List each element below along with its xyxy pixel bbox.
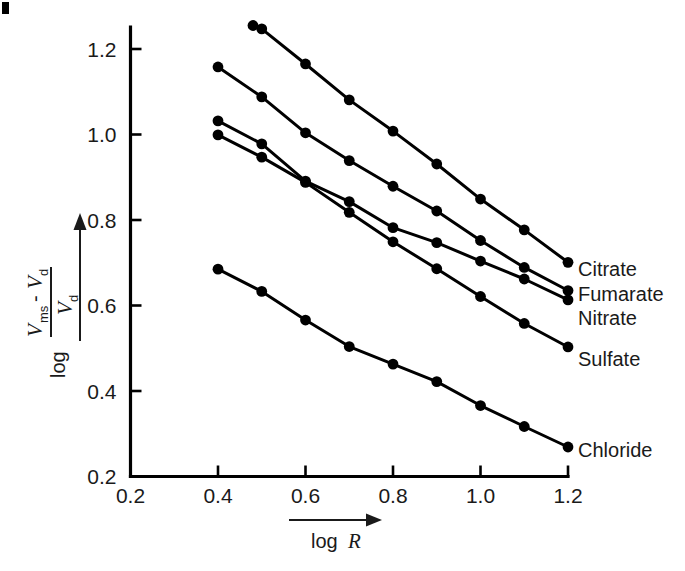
x-tick-label: 0.8 <box>378 484 407 507</box>
data-point <box>213 130 224 141</box>
y-axis-ticks: 0.20.40.60.81.01.2 <box>87 38 141 489</box>
data-series-group <box>213 20 574 452</box>
y-axis-numerator-v2-subscript: d <box>36 269 51 276</box>
y-axis-label-group: log V ms - V d V d <box>23 213 87 378</box>
data-point <box>519 274 530 285</box>
x-axis-label-variable: R <box>347 529 361 553</box>
series-line-chloride <box>218 269 568 447</box>
x-tick-label: 1.2 <box>553 484 582 507</box>
data-point <box>344 207 355 218</box>
data-point <box>475 256 486 267</box>
series-line-fumarate <box>218 67 568 291</box>
y-tick-label: 1.2 <box>87 38 116 61</box>
data-point <box>213 62 224 73</box>
y-tick-label: 0.8 <box>87 209 116 232</box>
data-point <box>431 237 442 248</box>
data-point <box>213 115 224 126</box>
data-point <box>475 400 486 411</box>
data-point <box>388 359 399 370</box>
x-axis-ticks: 0.20.40.60.81.01.2 <box>116 466 583 507</box>
y-tick-label: 0.6 <box>87 294 116 317</box>
x-tick-label: 0.4 <box>203 484 233 507</box>
y-axis-numerator-minus: - <box>24 295 46 302</box>
x-tick-label: 0.6 <box>291 484 320 507</box>
y-axis-label-log: log <box>47 351 69 378</box>
x-axis-arrow-head <box>366 514 382 527</box>
y-tick-label: 0.4 <box>87 380 117 403</box>
x-axis-label-log: log <box>311 530 338 552</box>
data-point <box>344 196 355 207</box>
data-point <box>300 59 311 70</box>
data-point <box>519 318 530 329</box>
data-point <box>431 376 442 387</box>
y-tick-label: 1.0 <box>87 123 116 146</box>
data-point <box>475 291 486 302</box>
data-point <box>213 264 224 275</box>
data-point <box>256 24 267 35</box>
data-point <box>563 342 574 353</box>
figure-container: 0.20.40.60.81.01.2 0.20.40.60.81.01.2 Ci… <box>0 0 685 571</box>
data-point <box>388 222 399 233</box>
data-point <box>563 442 574 453</box>
data-point <box>519 224 530 235</box>
data-point <box>256 139 267 150</box>
data-point <box>300 177 311 188</box>
data-point <box>431 206 442 217</box>
data-point <box>344 155 355 166</box>
series-line-nitrate <box>218 121 568 300</box>
line-chart: 0.20.40.60.81.01.2 0.20.40.60.81.01.2 Ci… <box>0 0 685 571</box>
x-tick-label: 0.2 <box>116 484 145 507</box>
x-axis-label-group: log R <box>289 514 382 554</box>
series-label-sulfate: Sulfate <box>578 348 640 370</box>
data-point <box>563 295 574 306</box>
data-point <box>563 257 574 268</box>
data-point <box>475 235 486 246</box>
data-point <box>300 127 311 138</box>
data-point <box>300 315 311 326</box>
y-axis-denominator-subscript: d <box>66 295 81 302</box>
data-point <box>431 159 442 170</box>
y-axis-numerator-v1-subscript: ms <box>36 305 51 323</box>
x-tick-label: 1.0 <box>466 484 495 507</box>
data-point <box>344 341 355 352</box>
data-point <box>344 94 355 105</box>
data-point <box>256 91 267 102</box>
series-label-citrate: Citrate <box>578 258 637 280</box>
data-point <box>388 236 399 247</box>
series-label-nitrate: Nitrate <box>578 307 637 329</box>
data-point <box>519 262 530 273</box>
series-label-group: CitrateFumarateNitrateSulfateChloride <box>578 258 664 461</box>
data-point <box>256 286 267 297</box>
series-label-chloride: Chloride <box>578 439 652 461</box>
data-point <box>388 181 399 192</box>
scan-artifact-mark <box>2 2 9 14</box>
y-axis-arrow-head <box>74 213 87 230</box>
data-point <box>431 263 442 274</box>
data-point <box>388 126 399 137</box>
series-label-fumarate: Fumarate <box>578 283 664 305</box>
data-point <box>256 152 267 163</box>
y-axis-numerator-v1: V <box>23 322 47 337</box>
plot-axes <box>131 27 569 477</box>
data-point <box>563 285 574 296</box>
y-tick-label: 0.2 <box>87 465 116 488</box>
data-point <box>475 194 486 205</box>
data-point <box>519 421 530 432</box>
